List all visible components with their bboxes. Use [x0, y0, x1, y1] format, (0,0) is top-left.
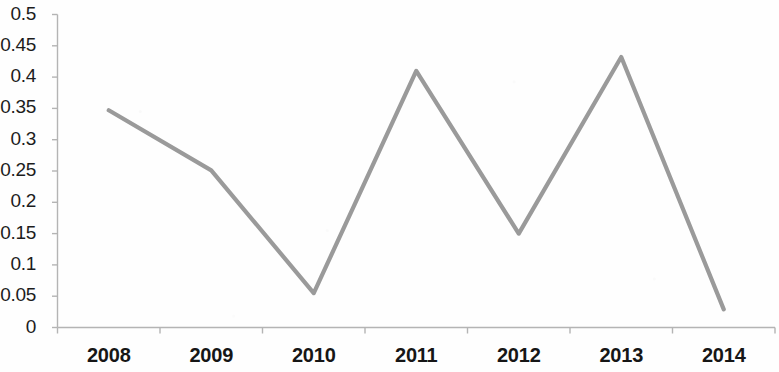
- x-axis-tick-label: 2013: [599, 344, 643, 367]
- x-axis-tick-label: 2010: [292, 344, 336, 367]
- x-axis-tick-label: 2008: [87, 344, 131, 367]
- x-axis-tick-label: 2011: [395, 344, 438, 367]
- x-axis-tick-labels: 2008200920102011201220132014: [0, 0, 779, 372]
- line-chart: 00.050.10.150.20.250.30.350.40.450.5 200…: [0, 0, 779, 372]
- x-axis-tick-label: 2014: [702, 344, 746, 367]
- x-axis-tick-label: 2009: [189, 344, 233, 367]
- x-axis-tick-label: 2012: [497, 344, 541, 367]
